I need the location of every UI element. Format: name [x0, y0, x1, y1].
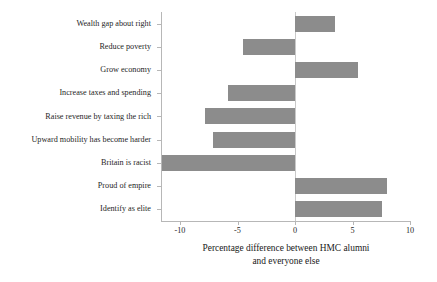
- y-axis-category-label: Britain is racist: [0, 158, 156, 168]
- x-axis-tick-label: 0: [293, 225, 297, 236]
- bar: [295, 178, 387, 194]
- horizontal-bar-chart: Wealth gap about rightReduce povertyGrow…: [0, 0, 437, 282]
- x-axis-ticks: -10-50510: [161, 221, 410, 237]
- bar: [228, 85, 295, 101]
- bar-row: [161, 82, 410, 105]
- y-axis-tick-mark: [157, 47, 161, 48]
- bar: [243, 39, 295, 55]
- bar-row: [161, 58, 410, 81]
- y-axis-category-label: Identify as elite: [0, 204, 156, 214]
- y-axis-tick-mark: [157, 70, 161, 71]
- bar-row: [161, 198, 410, 221]
- x-axis-tick-label: 5: [350, 225, 354, 236]
- plot-area: [161, 12, 410, 221]
- y-axis-category-label: Wealth gap about right: [0, 19, 156, 29]
- x-axis-tick-label: 10: [406, 225, 414, 236]
- bar-row: [161, 175, 410, 198]
- y-axis-category-label: Upward mobility has become harder: [0, 135, 156, 145]
- bar: [205, 108, 295, 124]
- bar: [295, 16, 335, 32]
- bar: [162, 155, 295, 171]
- y-axis-tick-mark: [157, 140, 161, 141]
- y-axis-tick-mark: [157, 209, 161, 210]
- x-axis-title-line-1: Percentage difference between HMC alumni: [203, 243, 370, 253]
- y-axis-tick-mark: [157, 116, 161, 117]
- y-axis-category-label: Proud of empire: [0, 181, 156, 191]
- bar-row: [161, 128, 410, 151]
- bar: [213, 132, 295, 148]
- x-axis-title-line-2: and everyone else: [150, 255, 422, 268]
- y-axis-category-label: Raise revenue by taxing the rich: [0, 112, 156, 122]
- y-axis-category-label: Reduce poverty: [0, 42, 156, 52]
- bar-row: [161, 35, 410, 58]
- y-axis-category-label: Grow economy: [0, 65, 156, 75]
- bar-row: [161, 105, 410, 128]
- y-axis-category-labels: Wealth gap about rightReduce povertyGrow…: [0, 12, 156, 221]
- x-axis-title: Percentage difference between HMC alumni…: [150, 242, 422, 268]
- bar-row: [161, 151, 410, 174]
- bar-rows: [161, 12, 410, 221]
- x-axis-tick-label: -10: [175, 225, 186, 236]
- y-axis-tick-mark: [157, 24, 161, 25]
- y-axis-category-label: Increase taxes and spending: [0, 88, 156, 98]
- y-axis-tick-mark: [157, 163, 161, 164]
- y-axis-tick-mark: [157, 93, 161, 94]
- bar-row: [161, 12, 410, 35]
- bar: [295, 62, 358, 78]
- bar: [295, 201, 382, 217]
- y-axis-tick-mark: [157, 186, 161, 187]
- x-axis-tick-label: -5: [234, 225, 241, 236]
